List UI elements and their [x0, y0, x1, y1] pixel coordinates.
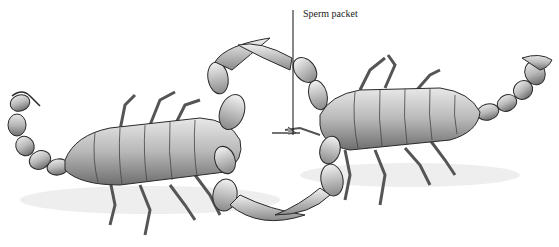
- left-scorpion-tail: [8, 92, 70, 177]
- annotation-label: Sperm packet: [303, 8, 358, 19]
- right-scorpion-tail: [475, 55, 552, 122]
- right-scorpion-body: [320, 88, 480, 150]
- scorpion-courtship-illustration: Sperm packet: [0, 0, 559, 247]
- right-scorpion-upper-claw: [238, 44, 331, 112]
- right-scorpion: [238, 44, 552, 215]
- left-scorpion-body: [65, 118, 241, 185]
- illustration-canvas: [0, 0, 559, 247]
